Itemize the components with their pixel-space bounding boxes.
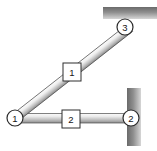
element-2-label: 2 [68, 114, 73, 125]
ceiling-slab [103, 7, 157, 19]
node-2-group[interactable]: 2 [123, 110, 139, 126]
frame-diagram-svg: 1 2 3 2 1 [0, 0, 157, 151]
element-2-label-group[interactable]: 2 [62, 110, 80, 128]
node-1-group[interactable]: 1 [7, 110, 23, 126]
support-ceiling [103, 7, 157, 19]
node-2-label: 2 [128, 113, 133, 124]
element-1-label-group[interactable]: 1 [63, 63, 81, 81]
node-3-label: 3 [122, 22, 127, 33]
node-1-label: 1 [12, 113, 17, 124]
frame-diagram-canvas: 1 2 3 2 1 [0, 0, 157, 151]
node-3-group[interactable]: 3 [117, 19, 133, 35]
element-1-label: 1 [69, 67, 74, 78]
